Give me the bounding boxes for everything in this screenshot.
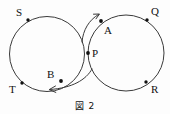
right-circle xyxy=(88,15,164,91)
point-dot-S xyxy=(26,18,29,21)
figure-canvas xyxy=(0,0,170,114)
point-dot-Q xyxy=(145,18,148,21)
figure-caption: 図 2 xyxy=(0,102,170,111)
point-label-A: A xyxy=(104,25,112,36)
point-label-T: T xyxy=(9,84,16,95)
geometry-figure: S T B P A Q R 図 2 xyxy=(0,0,170,114)
point-dot-R xyxy=(144,80,147,83)
point-dot-A xyxy=(99,19,103,23)
point-dot-B xyxy=(59,79,63,83)
lower-arrow xyxy=(49,69,92,92)
point-label-Q: Q xyxy=(151,6,159,17)
point-label-B: B xyxy=(47,69,54,80)
point-dot-P xyxy=(86,51,90,55)
left-circle xyxy=(10,17,85,92)
point-label-S: S xyxy=(16,7,22,18)
point-dot-T xyxy=(20,81,23,84)
point-label-P: P xyxy=(92,48,98,59)
point-label-R: R xyxy=(151,84,158,95)
